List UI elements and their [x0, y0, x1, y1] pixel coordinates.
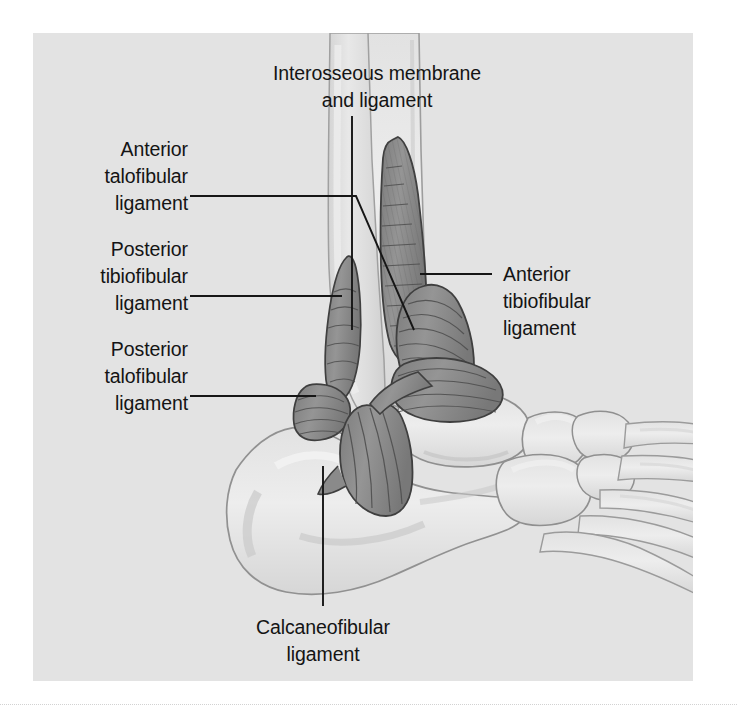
- anatomical-figure: Interosseous membrane and ligament Anter…: [0, 0, 737, 713]
- label-anterior-tibiofibular-line-2: tibiofibular: [503, 288, 703, 315]
- label-posterior-tibiofibular-line-3: ligament: [0, 290, 188, 317]
- label-posterior-tibiofibular-ligament: Posterior tibiofibular ligament: [0, 236, 188, 317]
- label-anterior-talofibular-line-1: Anterior: [0, 136, 188, 163]
- label-posterior-talofibular-line-1: Posterior: [0, 336, 188, 363]
- label-posterior-tibiofibular-line-2: tibiofibular: [0, 263, 188, 290]
- label-posterior-talofibular-line-3: ligament: [0, 390, 188, 417]
- label-calcaneofibular-line-1: Calcaneofibular: [203, 614, 443, 641]
- label-interosseous-line-1: Interosseous membrane: [256, 60, 498, 87]
- label-calcaneofibular-line-2: ligament: [203, 641, 443, 668]
- label-anterior-tibiofibular-line-1: Anterior: [503, 261, 703, 288]
- label-anterior-talofibular-line-2: talofibular: [0, 163, 188, 190]
- label-calcaneofibular-ligament: Calcaneofibular ligament: [203, 614, 443, 668]
- page-separator-rule: [0, 704, 737, 706]
- label-posterior-talofibular-ligament: Posterior talofibular ligament: [0, 336, 188, 417]
- label-posterior-talofibular-line-2: talofibular: [0, 363, 188, 390]
- cuboid-bone: [496, 455, 591, 526]
- label-interosseous-line-2: and ligament: [256, 87, 498, 114]
- label-anterior-tibiofibular-line-3: ligament: [503, 315, 703, 342]
- label-posterior-tibiofibular-line-1: Posterior: [0, 236, 188, 263]
- label-anterior-tibiofibular-ligament: Anterior tibiofibular ligament: [503, 261, 703, 342]
- label-anterior-talofibular-line-3: ligament: [0, 190, 188, 217]
- label-interosseous-membrane-and-ligament: Interosseous membrane and ligament: [256, 60, 498, 114]
- label-anterior-talofibular-ligament: Anterior talofibular ligament: [0, 136, 188, 217]
